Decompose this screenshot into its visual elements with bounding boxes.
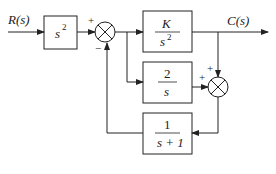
block-feedback-num: 1 xyxy=(164,117,171,132)
sum2-left-plus-sign: + xyxy=(199,71,205,83)
block-feedback-den: s + 1 xyxy=(157,135,184,150)
block-feedback-1-over-s-plus-1: 1 s + 1 xyxy=(143,113,192,154)
block-parallel-2-over-s: 2 s xyxy=(143,62,192,103)
block-pre-exp: 2 xyxy=(62,22,67,32)
arrow-sum2-to-feedback xyxy=(192,97,218,133)
block-parallel-den: s xyxy=(164,84,169,99)
block-diagram: R(s) s 2 + − K s 2 C(s) 2 s xyxy=(0,0,276,174)
block-pre-s2: s 2 xyxy=(44,16,77,49)
input-label: R(s) xyxy=(7,12,30,27)
summing-junction-1 xyxy=(95,22,115,42)
sum2-top-plus-sign: + xyxy=(207,62,213,74)
block-forward-num: K xyxy=(161,16,172,31)
output-label: C(s) xyxy=(227,13,249,28)
block-parallel-num: 2 xyxy=(164,66,171,81)
block-forward-den-exp: 2 xyxy=(167,32,172,42)
sum1-minus-sign: − xyxy=(95,42,101,54)
block-forward-k-over-s2: K s 2 xyxy=(143,11,192,52)
summing-junction-2 xyxy=(208,77,228,97)
block-pre-num: s xyxy=(55,26,60,41)
block-forward-den: s xyxy=(160,34,165,49)
arrow-feedback-to-sum1 xyxy=(107,43,143,133)
sum1-plus-sign: + xyxy=(88,14,94,26)
arrow-branch-to-parallel xyxy=(127,32,143,82)
